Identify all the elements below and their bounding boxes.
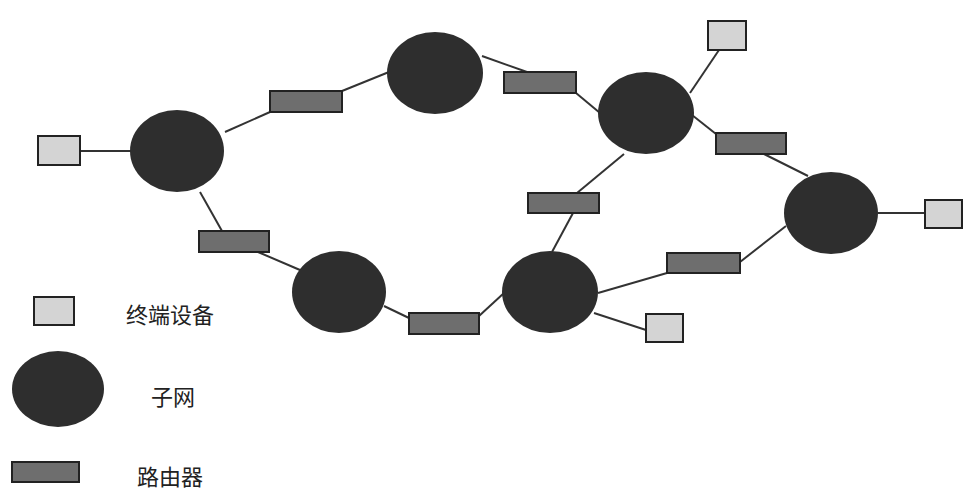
router-node-R2 [504, 72, 576, 93]
link-R7-S6 [479, 293, 504, 316]
link-S6-R6 [598, 273, 667, 293]
terminal-node-T4 [646, 314, 683, 342]
legend [12, 297, 104, 482]
terminal-node-T3 [925, 200, 962, 228]
subnet-node-S5 [292, 251, 386, 333]
legend-subnet-icon [12, 351, 104, 427]
legend-router-label: 路由器 [137, 459, 203, 491]
link-R1-S2 [342, 72, 389, 91]
legend-subnet-label: 子网 [151, 379, 195, 411]
link-S6-T4 [594, 313, 646, 330]
subnet-node-S1 [130, 110, 224, 192]
router-node-R5 [199, 231, 269, 252]
link-S3-R4 [577, 154, 624, 193]
legend-terminal-label: 终端设备 [126, 297, 214, 329]
link-S3-T2 [690, 50, 719, 93]
link-R5-S5 [258, 252, 300, 270]
legend-router-icon [12, 462, 79, 482]
legend-terminal-icon [34, 297, 74, 325]
terminal-node-T1 [38, 136, 80, 165]
router-node-R3 [716, 133, 786, 154]
subnet-node-S2 [387, 32, 483, 114]
subnet-node-S3 [598, 72, 694, 154]
link-S1-R1 [225, 112, 270, 132]
router-node-R4 [528, 193, 599, 213]
subnet-node-S6 [502, 251, 598, 333]
link-S5-R7 [384, 306, 409, 318]
link-R4-S6 [552, 213, 573, 252]
link-S3-R3 [692, 115, 716, 134]
router-node-R6 [667, 253, 740, 273]
link-S1-R5 [200, 192, 222, 231]
link-R2-S3 [576, 93, 600, 113]
link-R3-S4 [764, 154, 808, 176]
routers [199, 72, 786, 334]
router-node-R1 [270, 91, 342, 112]
terminal-node-T2 [708, 21, 746, 50]
link-S2-R2 [482, 56, 527, 72]
network-diagram [0, 0, 971, 498]
subnet-node-S4 [784, 172, 878, 254]
link-R6-S4 [740, 226, 786, 262]
router-node-R7 [409, 313, 479, 334]
